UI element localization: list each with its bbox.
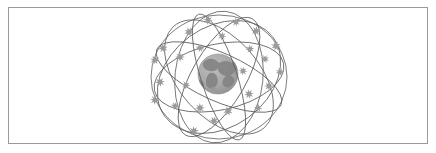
figure-border xyxy=(8,7,428,144)
figure-alt-text: Illustration of a globe of the Earth enc… xyxy=(0,0,1,1)
figure-canvas: Illustration of a globe of the Earth enc… xyxy=(0,0,436,153)
